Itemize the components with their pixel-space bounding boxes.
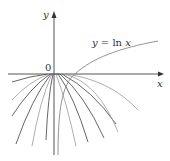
ln-x-diagram: y x 0 y = ln x bbox=[0, 0, 170, 161]
y-axis-label: y bbox=[42, 9, 49, 20]
ln-x-curve bbox=[58, 41, 158, 155]
y-axis-arrow-icon bbox=[52, 11, 57, 18]
x-axis-label: x bbox=[157, 78, 163, 89]
origin-label: 0 bbox=[45, 62, 51, 73]
curve-label-eq: = bbox=[98, 37, 113, 48]
x-axis-arrow-icon bbox=[158, 72, 164, 77]
y-axis bbox=[52, 11, 57, 155]
curve-label-var: x bbox=[122, 37, 131, 48]
parabola-family bbox=[12, 74, 138, 146]
curve-label: y = ln x bbox=[91, 37, 131, 48]
x-axis bbox=[8, 72, 164, 77]
